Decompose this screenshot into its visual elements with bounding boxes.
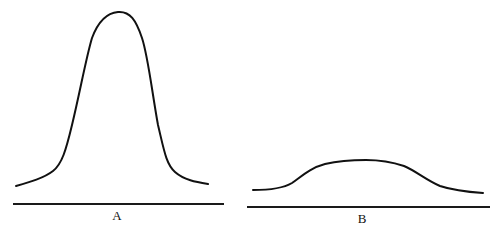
panel-a	[13, 12, 224, 204]
distribution-comparison-diagram: A B	[0, 0, 499, 234]
panel-label-b: B	[358, 212, 367, 225]
panel-b	[247, 160, 490, 207]
diagram-canvas	[0, 0, 499, 234]
curve-a-tall-narrow	[16, 12, 208, 186]
curve-b-low-wide	[253, 160, 483, 193]
panel-label-a: A	[112, 209, 121, 222]
